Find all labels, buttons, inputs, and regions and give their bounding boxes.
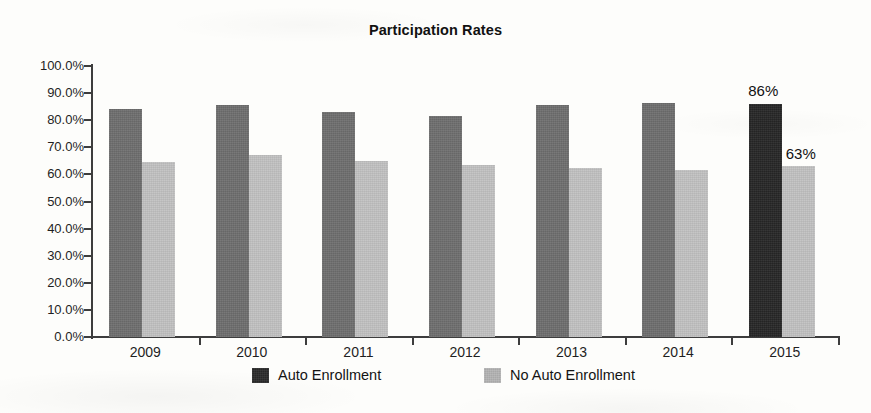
x-axis-tick bbox=[838, 338, 840, 345]
x-axis-tick-label-2012: 2012 bbox=[425, 344, 505, 360]
y-axis-tick-label: 70.0% bbox=[14, 140, 84, 153]
x-axis-tick-label-2013: 2013 bbox=[532, 344, 612, 360]
bar-2009-auto-enrollment bbox=[109, 109, 142, 337]
x-axis-tick bbox=[731, 338, 733, 345]
bar-texture bbox=[675, 170, 708, 337]
y-axis-tick bbox=[84, 119, 92, 121]
bar-texture bbox=[569, 168, 602, 337]
y-axis-tick-label: 80.0% bbox=[14, 113, 84, 126]
y-axis-tick-label: 20.0% bbox=[14, 276, 84, 289]
data-label-no-auto-enrollment: 63% bbox=[786, 145, 816, 162]
y-axis-tick bbox=[84, 309, 92, 311]
y-axis-tick bbox=[84, 65, 92, 67]
bar-texture bbox=[142, 162, 175, 337]
y-axis-tick bbox=[84, 255, 92, 257]
data-label-auto-enrollment: 86% bbox=[748, 82, 778, 99]
chart-legend: Auto EnrollmentNo Auto Enrollment bbox=[0, 368, 871, 392]
chart-title: Participation Rates bbox=[0, 22, 871, 38]
y-axis-tick bbox=[84, 336, 92, 338]
bar-2011-no-auto-enrollment bbox=[355, 161, 388, 337]
legend-swatch-icon bbox=[252, 368, 269, 383]
bar-texture bbox=[322, 112, 355, 337]
y-axis-tick-label: 40.0% bbox=[14, 222, 84, 235]
y-axis-tick bbox=[84, 92, 92, 94]
x-axis-tick-label-2010: 2010 bbox=[212, 344, 292, 360]
x-axis-tick bbox=[518, 338, 520, 345]
bar-2011-auto-enrollment bbox=[322, 112, 355, 337]
legend-swatch-icon bbox=[484, 368, 501, 383]
bar-texture bbox=[355, 161, 388, 337]
legend-item-no-auto-enrollment[interactable]: No Auto Enrollment bbox=[484, 368, 635, 383]
bar-texture bbox=[642, 103, 675, 337]
bar-2012-auto-enrollment bbox=[429, 116, 462, 337]
y-axis-tick-label: 100.0% bbox=[14, 59, 84, 72]
bar-texture bbox=[216, 105, 249, 337]
legend-swatch-texture bbox=[252, 368, 269, 383]
y-axis-tick-label: 0.0% bbox=[14, 330, 84, 343]
y-axis-tick bbox=[84, 201, 92, 203]
x-axis-tick bbox=[625, 338, 627, 345]
x-axis-tick bbox=[412, 338, 414, 345]
bar-texture bbox=[536, 105, 569, 337]
x-axis-tick bbox=[199, 338, 201, 345]
y-axis-tick-label: 10.0% bbox=[14, 303, 84, 316]
x-axis-tick bbox=[305, 338, 307, 345]
y-axis-tick bbox=[84, 228, 92, 230]
legend-label: No Auto Enrollment bbox=[510, 368, 635, 383]
bar-2012-no-auto-enrollment bbox=[462, 165, 495, 337]
y-axis-tick bbox=[84, 173, 92, 175]
y-axis-tick-label: 50.0% bbox=[14, 195, 84, 208]
bar-2014-auto-enrollment bbox=[642, 103, 675, 337]
bar-texture bbox=[109, 109, 142, 337]
bar-2010-auto-enrollment bbox=[216, 105, 249, 337]
bar-2013-auto-enrollment bbox=[536, 105, 569, 337]
bar-texture bbox=[249, 155, 282, 337]
bar-2013-no-auto-enrollment bbox=[569, 168, 602, 337]
bar-2015-auto-enrollment bbox=[749, 104, 782, 337]
participation-rates-chart: Participation Rates 100.0%90.0%80.0%70.0… bbox=[0, 0, 871, 413]
bar-texture bbox=[429, 116, 462, 337]
x-axis-tick-label-2014: 2014 bbox=[638, 344, 718, 360]
legend-swatch-texture bbox=[484, 368, 501, 383]
x-axis-tick-label-2009: 2009 bbox=[105, 344, 185, 360]
bar-2010-no-auto-enrollment bbox=[249, 155, 282, 337]
y-axis-tick-label: 90.0% bbox=[14, 86, 84, 99]
legend-item-auto-enrollment[interactable]: Auto Enrollment bbox=[252, 368, 381, 383]
bar-2009-no-auto-enrollment bbox=[142, 162, 175, 337]
y-axis-tick-label: 30.0% bbox=[14, 249, 84, 262]
bar-texture bbox=[749, 104, 782, 337]
y-axis-tick bbox=[84, 146, 92, 148]
bar-2015-no-auto-enrollment bbox=[782, 166, 815, 337]
bar-texture bbox=[462, 165, 495, 337]
x-axis-tick-label-2015: 2015 bbox=[745, 344, 825, 360]
bar-texture bbox=[782, 166, 815, 337]
y-axis-labels: 100.0%90.0%80.0%70.0%60.0%50.0%40.0%30.0… bbox=[8, 0, 84, 413]
y-axis-tick-label: 60.0% bbox=[14, 167, 84, 180]
x-axis-tick-label-2011: 2011 bbox=[318, 344, 398, 360]
legend-label: Auto Enrollment bbox=[278, 368, 381, 383]
y-axis-tick bbox=[84, 282, 92, 284]
bar-2014-no-auto-enrollment bbox=[675, 170, 708, 337]
